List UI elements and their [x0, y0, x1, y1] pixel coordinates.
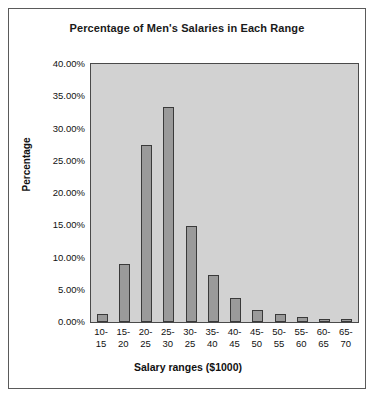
bar[interactable]: [252, 310, 263, 322]
x-axis-tick-label: 10-15: [90, 326, 112, 350]
bar[interactable]: [186, 226, 197, 322]
y-axis-tick-label: 25.00%: [53, 154, 85, 165]
y-axis-tick-label: 0.00%: [58, 316, 85, 327]
bar[interactable]: [208, 275, 219, 322]
y-axis-tick-label: 35.00%: [53, 90, 85, 101]
bar[interactable]: [341, 319, 352, 322]
x-axis-tick-label: 45-50: [246, 326, 268, 350]
y-axis-tick-label: 30.00%: [53, 122, 85, 133]
x-axis-tick-label: 25-30: [157, 326, 179, 350]
chart-canvas: Percentage 40.00%35.00%30.00%25.00%20.00…: [9, 9, 367, 390]
bar-slot: [269, 64, 291, 322]
x-axis-tick-label: 55-60: [290, 326, 312, 350]
bar[interactable]: [230, 298, 241, 322]
chart-page: Percentage of Men's Salaries in Each Ran…: [8, 8, 366, 389]
y-axis-tick-label: 10.00%: [53, 251, 85, 262]
x-axis-tick-label: 40-45: [224, 326, 246, 350]
bar-slot: [91, 64, 113, 322]
bar-slot: [314, 64, 336, 322]
x-axis-tick-label: 60-65: [313, 326, 335, 350]
x-axis-tick-label: 30-25: [179, 326, 201, 350]
bar-slot: [247, 64, 269, 322]
bar-slot: [336, 64, 358, 322]
bar-slot: [136, 64, 158, 322]
x-axis-tick-label: 15-20: [112, 326, 134, 350]
x-axis-tick-labels: 10-1515-2020-2525-3030-2535-4040-4545-50…: [90, 326, 357, 350]
x-axis-tick-label: 50-55: [268, 326, 290, 350]
y-axis-tick-label: 15.00%: [53, 219, 85, 230]
plot-area: [90, 63, 359, 323]
x-axis-tick-label: 20-25: [135, 326, 157, 350]
y-axis-title: Percentage: [21, 110, 32, 220]
bar-slot: [158, 64, 180, 322]
bar-slot: [291, 64, 313, 322]
bar[interactable]: [319, 319, 330, 322]
bar[interactable]: [297, 317, 308, 322]
y-axis-tick-label: 20.00%: [53, 187, 85, 198]
bar[interactable]: [275, 314, 286, 322]
bar-slot: [225, 64, 247, 322]
bar[interactable]: [97, 314, 108, 322]
bar-slot: [180, 64, 202, 322]
bar[interactable]: [163, 107, 174, 322]
x-axis-tick-label: 35-40: [201, 326, 223, 350]
bar-series: [91, 64, 358, 322]
x-axis-tick-label: 65-70: [335, 326, 357, 350]
y-axis-tick-label: 5.00%: [58, 283, 85, 294]
bar-slot: [113, 64, 135, 322]
bar-slot: [202, 64, 224, 322]
bar[interactable]: [141, 145, 152, 322]
y-axis-tick-labels: 40.00%35.00%30.00%25.00%20.00%15.00%10.0…: [35, 63, 85, 321]
x-axis-title: Salary ranges ($1000): [9, 361, 367, 373]
y-axis-tick-label: 40.00%: [53, 58, 85, 69]
bar[interactable]: [119, 264, 130, 322]
